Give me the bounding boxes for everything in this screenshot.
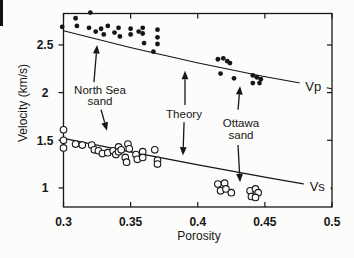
vp-data-point <box>60 24 65 29</box>
vp-data-point <box>140 31 145 36</box>
vs-data-point <box>60 126 67 133</box>
annotation-arrow-shaft <box>101 110 105 123</box>
annotation-arrow-head <box>236 174 243 183</box>
annotation-arrow-shaft <box>238 94 239 109</box>
vp-data-point <box>117 34 122 39</box>
vs-data-point <box>60 145 67 152</box>
annotation-north-sea-line1: North Sea <box>74 84 126 96</box>
annotation-ottawa-line1: Ottawa <box>223 117 260 129</box>
vp-data-point <box>155 42 160 47</box>
vp-data-point <box>218 71 223 76</box>
y-tick-label: 1 <box>42 181 49 195</box>
annotation-north-sea-line2: sand <box>88 95 113 107</box>
vs-data-point <box>228 189 235 196</box>
annotation-arrow-head <box>182 71 189 80</box>
vp-data-point <box>88 10 93 15</box>
annotation-arrow-head <box>101 122 108 131</box>
vp-data-point <box>232 76 237 81</box>
x-axis-title: Porosity <box>177 229 220 243</box>
vp-data-point <box>155 27 160 32</box>
x-tick-label: 0.5 <box>324 215 341 229</box>
vp-data-point <box>142 41 147 46</box>
scan-artifact <box>0 0 3 26</box>
vs-data-point <box>139 154 146 161</box>
velocity-porosity-figure: 0.30.350.40.450.511.522.5 VpVs Porosity … <box>0 0 354 258</box>
vp-data-point <box>105 23 110 28</box>
annotation-arrow-head <box>93 45 100 54</box>
vp-theory-curve <box>64 31 333 89</box>
axes-frame: 0.30.350.40.450.511.522.5 <box>37 14 341 230</box>
vp-data-point <box>93 29 98 34</box>
vp-curve-label: Vp <box>305 79 321 94</box>
vs-data-point <box>79 142 86 149</box>
vp-data-point <box>99 26 104 31</box>
x-tick-label: 0.45 <box>253 215 277 229</box>
vp-data-point <box>116 25 121 30</box>
annotation-theory: Theory <box>166 108 202 120</box>
vp-data-point <box>221 56 226 61</box>
annotation-arrow-head <box>180 147 187 156</box>
vs-data-point <box>154 161 161 168</box>
vs-data-point <box>118 147 125 154</box>
curve-labels: VpVs <box>300 78 331 195</box>
vp-data-point <box>155 35 160 40</box>
vs-curve-label: Vs <box>310 179 326 194</box>
vp-data-point <box>101 32 106 37</box>
y-axis-title: Velocity (km/s) <box>16 64 30 142</box>
vp-data-point <box>75 23 80 28</box>
vp-data-point <box>112 30 117 35</box>
vp-data-point <box>87 25 92 30</box>
vs-data-point <box>252 194 259 201</box>
annotation-arrow-shaft <box>238 145 240 174</box>
vp-data-point <box>73 16 78 21</box>
vs-theory-curve <box>64 138 333 189</box>
y-tick-label: 2.5 <box>37 38 54 52</box>
vp-data-point <box>128 32 133 37</box>
vs-data-point <box>151 147 158 154</box>
vp-data-point <box>215 57 220 62</box>
velocity-porosity-chart: 0.30.350.40.450.511.522.5 VpVs Porosity … <box>0 0 354 258</box>
x-tick-label: 0.3 <box>55 215 72 229</box>
x-tick-label: 0.35 <box>119 215 143 229</box>
vp-data-point <box>151 49 156 54</box>
vs-data-point <box>126 146 133 153</box>
annotation-arrow-shaft <box>94 53 96 82</box>
x-tick-label: 0.4 <box>189 215 206 229</box>
vp-data-point <box>140 25 145 30</box>
vs-data-point <box>123 159 130 166</box>
y-tick-label: 1.5 <box>37 134 54 148</box>
vp-data-point <box>128 26 133 31</box>
vp-data-point <box>228 61 233 66</box>
y-tick-label: 2 <box>42 86 49 100</box>
vp-data-point <box>257 81 262 86</box>
annotation-arrow-shaft <box>183 122 184 147</box>
vs-data-point <box>60 137 67 144</box>
vs-data-point <box>72 141 79 148</box>
vs-data-point <box>215 181 222 188</box>
annotation-ottawa-line2: sand <box>229 129 254 141</box>
annotation-arrow-head <box>236 86 243 95</box>
vp-data-point <box>250 81 255 86</box>
